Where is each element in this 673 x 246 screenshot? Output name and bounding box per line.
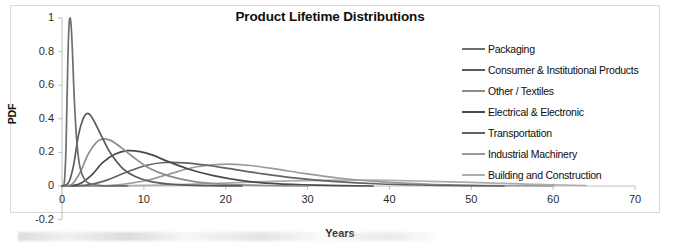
x-tick-label: 0	[47, 193, 77, 205]
x-tick-label: 30	[293, 193, 323, 205]
x-tick-label: 40	[374, 193, 404, 205]
legend-item-label: Industrial Machinery	[488, 148, 577, 160]
y-tick-label: 0.4	[20, 112, 54, 124]
legend-item[interactable]: Consumer & Institutional Products	[462, 59, 662, 80]
legend-color-swatch	[462, 174, 485, 176]
legend-item-label: Other / Textiles	[488, 85, 554, 97]
legend-item-label: Consumer & Institutional Products	[488, 64, 639, 76]
y-tick-label: 0.8	[20, 45, 54, 57]
legend-item-label: Transportation	[488, 127, 552, 139]
chart-figure: Product Lifetime Distributions PDF Years…	[0, 0, 673, 246]
legend-item[interactable]: Industrial Machinery	[462, 143, 662, 164]
legend-item[interactable]: Building and Construction	[462, 164, 662, 185]
legend-color-swatch	[462, 111, 485, 113]
x-tick-label: 20	[211, 193, 241, 205]
legend-color-swatch	[462, 69, 485, 71]
y-tick-label: 0	[20, 179, 54, 191]
y-tick-label: 0.6	[20, 78, 54, 90]
y-tick-label: 1	[20, 11, 54, 23]
page-artifact-text	[18, 232, 438, 241]
series-line	[62, 162, 504, 186]
x-tick-label: 10	[129, 193, 159, 205]
chart-legend: PackagingConsumer & Institutional Produc…	[462, 38, 662, 185]
legend-color-swatch	[462, 90, 485, 92]
legend-item[interactable]: Electrical & Electronic	[462, 101, 662, 122]
legend-item[interactable]: Transportation	[462, 122, 662, 143]
x-tick-label: 50	[456, 193, 486, 205]
y-tick-label: 0.2	[20, 145, 54, 157]
legend-item[interactable]: Packaging	[462, 38, 662, 59]
legend-item-label: Electrical & Electronic	[488, 106, 584, 118]
x-tick-label: 60	[538, 193, 568, 205]
legend-item-label: Packaging	[488, 43, 535, 55]
legend-item-label: Building and Construction	[488, 169, 601, 181]
legend-color-swatch	[462, 48, 485, 50]
x-tick-label: 70	[620, 193, 650, 205]
legend-color-swatch	[462, 153, 485, 155]
y-axis-title: PDF	[6, 94, 18, 134]
legend-color-swatch	[462, 132, 485, 134]
series-line	[62, 18, 127, 186]
legend-item[interactable]: Other / Textiles	[462, 80, 662, 101]
y-tick-label: -0.2	[20, 213, 54, 225]
